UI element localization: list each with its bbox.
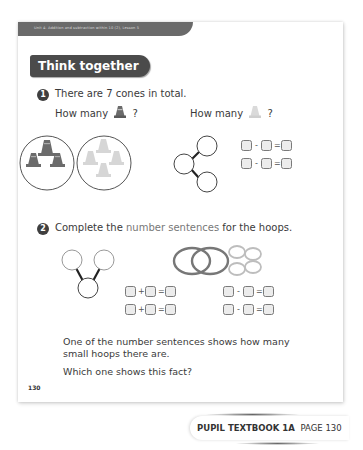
equation-row-1-2: - =	[241, 158, 292, 169]
textbook-page: Unit 4: Addition and subtraction within …	[18, 22, 343, 402]
plus-sign: +	[138, 286, 143, 297]
minus-sign: -	[254, 140, 259, 151]
equals-sign: =	[158, 286, 163, 297]
shadow-decoration-bottom	[235, 442, 320, 445]
answer-box[interactable]	[261, 140, 272, 151]
answer-box[interactable]	[223, 304, 234, 315]
equals-sign: =	[158, 304, 163, 315]
answer-box[interactable]	[263, 304, 274, 315]
minus-sign: -	[236, 286, 241, 297]
equation-row-2-1-left: + =	[125, 286, 176, 297]
glossary-term-number-sentences[interactable]: number sentences	[126, 222, 219, 233]
book-page-number: PAGE 130	[301, 423, 342, 433]
follow-up-line-2: small hoops there are.	[63, 348, 170, 359]
equals-sign: =	[274, 158, 279, 169]
part-whole-model-1	[174, 136, 217, 192]
answer-box[interactable]	[241, 140, 252, 151]
answer-box[interactable]	[281, 158, 292, 169]
plus-sign: +	[138, 304, 143, 315]
answer-box[interactable]	[145, 286, 156, 297]
part-whole-model-2	[62, 250, 114, 298]
answer-box[interactable]	[281, 140, 292, 151]
question-2-number-badge: 2	[37, 223, 49, 235]
hoops-illustration	[174, 246, 261, 275]
answer-box[interactable]	[243, 304, 254, 315]
equation-row-2-1-right: - =	[223, 286, 274, 297]
answer-box[interactable]	[241, 158, 252, 169]
equals-sign: =	[256, 304, 261, 315]
answer-box[interactable]	[263, 286, 274, 297]
equals-sign: =	[256, 286, 261, 297]
answer-box[interactable]	[165, 286, 176, 297]
minus-sign: -	[254, 158, 259, 169]
equation-row-1-1: - =	[241, 140, 292, 151]
equals-sign: =	[274, 140, 279, 151]
answer-box[interactable]	[145, 304, 156, 315]
answer-box[interactable]	[223, 286, 234, 297]
book-page-label: PUPIL TEXTBOOK 1A PAGE 130	[190, 416, 349, 440]
answer-box[interactable]	[261, 158, 272, 169]
equation-row-2-2-left: + =	[125, 304, 176, 315]
answer-box[interactable]	[243, 286, 254, 297]
q2-text-end: for the hoops.	[219, 222, 292, 233]
question-2-text: Complete the number sentences for the ho…	[55, 222, 292, 233]
follow-up-question: Which one shows this fact?	[63, 366, 192, 377]
equation-row-2-2-right: - =	[223, 304, 274, 315]
minus-sign: -	[236, 304, 241, 315]
answer-box[interactable]	[125, 286, 136, 297]
follow-up-line-1: One of the number sentences shows how ma…	[63, 336, 290, 347]
answer-box[interactable]	[125, 304, 136, 315]
answer-box[interactable]	[165, 304, 176, 315]
dark-cones-group	[20, 136, 74, 190]
book-title: PUPIL TEXTBOOK 1A	[197, 423, 295, 433]
light-cones-group	[77, 136, 131, 190]
page-number: 130	[28, 384, 41, 391]
q2-text-start: Complete the	[55, 222, 126, 233]
